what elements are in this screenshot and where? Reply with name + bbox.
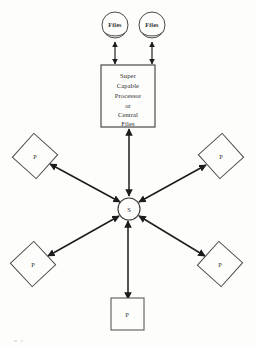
peripheral-node-label: P [125,311,129,318]
peripheral-node-p-northwest[interactable]: P [12,133,57,178]
peripheral-node-p-south[interactable]: P [111,298,144,330]
storage-node-files-left[interactable]: Files [102,12,128,38]
peripheral-node-label: P [219,153,223,160]
storage-node-label: Files [108,21,122,28]
storage-node-files-right[interactable]: Files [139,12,165,38]
processor-line-5: Central [118,111,138,118]
connector-switch-to-p-northwest [50,164,120,202]
peripheral-node-label: P [31,261,35,268]
switch-node[interactable]: S [118,198,140,220]
processor-line-4: or [125,102,131,109]
processor-line-3: Processor [115,92,142,99]
scan-artifact [21,340,23,342]
processor-box[interactable]: Super Capable Processor or Central Files [101,65,155,127]
peripheral-node-label: P [33,153,37,160]
processor-line-1: Super [120,72,137,79]
processor-line-2: Capable [117,82,139,89]
peripheral-node-label: P [218,261,222,268]
peripheral-node-p-southwest[interactable]: P [10,241,55,286]
storage-node-label: Files [145,21,159,28]
connector-switch-to-p-northeast [139,165,206,202]
connector-switch-to-p-southeast [139,216,205,256]
switch-label: S [127,206,131,213]
scan-artifact [14,340,17,342]
peripheral-node-p-northeast[interactable]: P [198,133,243,178]
peripheral-node-p-southeast[interactable]: P [197,241,242,286]
connector-switch-to-p-southwest [48,216,119,256]
diagram-canvas: Files Files Super Capable Processor or C… [0,0,256,348]
processor-line-6: Files [121,120,135,127]
star-network-diagram: Files Files Super Capable Processor or C… [0,0,256,348]
